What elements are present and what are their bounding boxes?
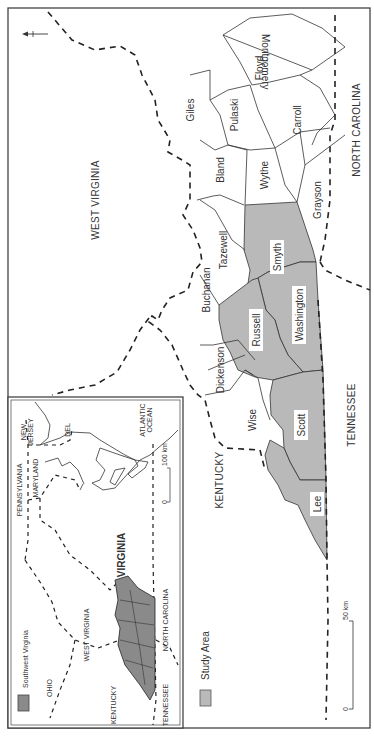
- legend-swatch: [200, 690, 211, 706]
- inset-label-virginia: VIRGINIA: [116, 533, 127, 577]
- county-wythe: Wythe: [259, 160, 270, 189]
- label-north-carolina: NORTH CAROLINA: [351, 83, 362, 177]
- county-scott: Scott: [296, 413, 307, 436]
- inset-label-pennsylvania: PENNSYLVANIA: [16, 463, 23, 516]
- county-washington: Washington: [294, 289, 305, 341]
- county-floyd: Floyd: [254, 56, 265, 80]
- legend-label: Study Area: [200, 631, 211, 680]
- county-giles: Giles: [185, 99, 196, 122]
- inset-label-atlantic: ATLANTIC: [139, 403, 146, 436]
- scale-bar-end: 50 km: [342, 601, 349, 620]
- inset-label-north-carolina: NORTH CAROLINA: [162, 588, 169, 651]
- inset-label-ohio: OHIO: [46, 679, 53, 697]
- county-grayson: Grayson: [312, 181, 323, 219]
- county-pulaski: Pulaski: [229, 99, 240, 131]
- north-arrow-icon: [22, 31, 48, 37]
- inset-label-del: DEL: [64, 423, 71, 437]
- inset-legend-swatch: [18, 695, 29, 711]
- inset-map: NEW NEW JERSEY JERSEY DEL PENNSYLVANIA M…: [8, 397, 183, 728]
- label-tennessee: TENNESSEE: [346, 383, 357, 446]
- county-dickenson: Dickenson: [215, 347, 226, 394]
- study-area-legend: Study Area: [200, 631, 211, 706]
- inset-label-ocean: OCEAN: [146, 408, 153, 433]
- county-carroll: Carroll: [292, 105, 303, 134]
- county-tazewell: Tazewell: [218, 231, 229, 269]
- county-bland: Bland: [215, 157, 226, 183]
- county-wise: Wise: [247, 408, 258, 431]
- county-russell: Russell: [251, 314, 262, 347]
- inset-label-tennessee: TENNESSEE: [162, 683, 169, 726]
- inset-label-new: NEW: [20, 423, 27, 440]
- county-lee: Lee: [312, 495, 323, 512]
- map-canvas: Montgomery Floyd Giles Pulaski Carroll B…: [0, 0, 374, 742]
- county-buchanan: Buchanan: [201, 267, 212, 312]
- inset-label-kentucky: KENTUCKY: [110, 686, 117, 724]
- scale-bar-start: 0: [342, 707, 349, 711]
- inset-legend-label: Southwest Virginia: [22, 630, 30, 688]
- inset-label-west-virginia: WEST VIRGINIA: [83, 608, 90, 661]
- label-kentucky: KENTUCKY: [214, 452, 225, 509]
- scale-bar: 50 km 0: [342, 601, 353, 711]
- label-west-virginia: WEST VIRGINIA: [90, 160, 101, 239]
- county-smyth: Smyth: [272, 243, 283, 271]
- inset-scale-end: 100 km: [161, 443, 168, 466]
- inset-label-jersey: JERSEY: [27, 418, 34, 446]
- inset-label-maryland: MARYLAND: [32, 459, 39, 498]
- inset-scale-start: 0: [161, 500, 168, 504]
